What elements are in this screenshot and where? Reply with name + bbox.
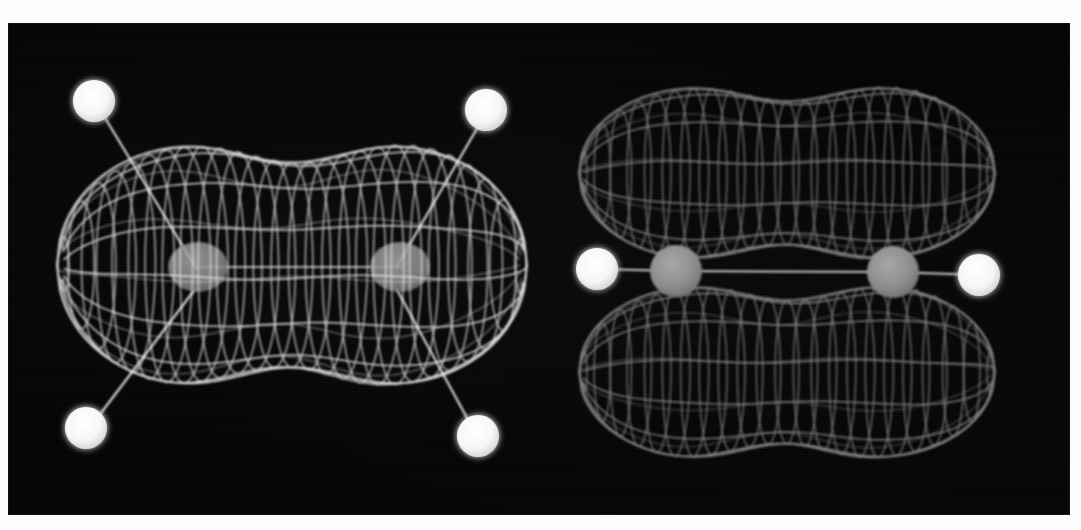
mesh-ring-line: [594, 124, 610, 222]
mesh-ring-line: [271, 163, 313, 368]
mesh-ring-line: [737, 294, 762, 447]
mesh-ring-line: [943, 306, 964, 436]
mesh-ring-line: [82, 183, 116, 349]
hydrogen-atom-h3: [65, 407, 107, 449]
mesh-ring-line: [756, 298, 780, 444]
mesh-ring-line: [644, 294, 671, 453]
bond-c1-c2: [676, 271, 893, 272]
mesh-ring-line: [235, 156, 279, 369]
carbon-atom-c2: [867, 246, 919, 298]
orbital-image-panel: [8, 23, 1070, 515]
mesh-longitude-line: [582, 183, 992, 258]
mesh-ring-line: [737, 95, 762, 248]
mesh-ring-line: [288, 162, 330, 369]
mesh-ring-line: [943, 107, 964, 237]
sigma-wireframe-mesh: [57, 145, 527, 385]
hydrogen-atom-h1: [73, 80, 115, 122]
hydrogen-atom-h4: [457, 415, 499, 457]
hydrogen-atom-h2: [958, 254, 1000, 296]
mesh-ring-line: [775, 101, 799, 245]
mesh-longitude-line: [582, 382, 992, 457]
mesh-ring-line: [644, 95, 671, 254]
mesh-ring-line: [756, 99, 780, 245]
mesh-ring-line: [775, 300, 799, 444]
mesh-ring-line: [963, 322, 979, 422]
orbital-scene: [8, 23, 1070, 515]
pi-wireframe-mesh-lower: [579, 286, 995, 457]
figure-root: [0, 0, 1081, 530]
mesh-ring-line: [594, 323, 610, 421]
carbon-atom-c1: [650, 245, 702, 297]
sigma-orbital-group: [57, 80, 527, 457]
sigma-hydrogen-atoms: [65, 80, 507, 457]
pi-wireframe-mesh-upper: [579, 87, 995, 258]
mesh-ring-line: [610, 111, 631, 238]
mesh-ring-line: [963, 123, 979, 223]
mesh-ring-line: [253, 160, 295, 367]
hydrogen-atom-h1: [576, 248, 618, 290]
mesh-ring-line: [610, 310, 631, 437]
hydrogen-atom-h2: [465, 89, 507, 131]
pi-orbital-group: [576, 87, 1000, 457]
